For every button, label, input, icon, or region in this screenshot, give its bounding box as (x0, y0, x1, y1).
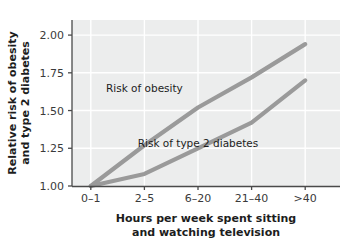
series-annotation-2: Risk of type 2 diabetes (138, 137, 259, 149)
x-tick-label: 6–20 (185, 192, 212, 205)
series-annotation-1: Risk of obesity (106, 82, 183, 94)
x-tick-label: 2–5 (135, 192, 155, 205)
y-axis-title-line1: Relative risk of obesity (6, 31, 19, 174)
line-chart: 1.001.251.501.752.00 0–12–56–2021–40>40 … (0, 0, 348, 248)
x-axis-title-line1: Hours per week spent sitting (116, 212, 296, 225)
x-axis-title: Hours per week spent sitting and watchin… (116, 212, 296, 239)
x-axis-title-line2: and watching television (132, 226, 280, 239)
x-axis-ticks: 0–12–56–2021–40>40 (81, 186, 317, 205)
y-tick-label: 2.00 (40, 29, 65, 42)
chart-figure: 1.001.251.501.752.00 0–12–56–2021–40>40 … (0, 0, 348, 248)
y-axis-title: Relative risk of obesity and type 2 diab… (6, 31, 32, 174)
y-tick-label: 1.25 (40, 142, 65, 155)
y-tick-label: 1.75 (40, 67, 65, 80)
x-tick-label: 0–1 (81, 192, 101, 205)
y-tick-label: 1.00 (40, 180, 65, 193)
y-axis-title-line2: and type 2 diabetes (19, 41, 32, 165)
x-tick-label: >40 (294, 192, 317, 205)
x-tick-label: 21–40 (235, 192, 269, 205)
y-tick-label: 1.50 (40, 105, 65, 118)
y-axis-ticks: 1.001.251.501.752.00 (40, 29, 73, 193)
